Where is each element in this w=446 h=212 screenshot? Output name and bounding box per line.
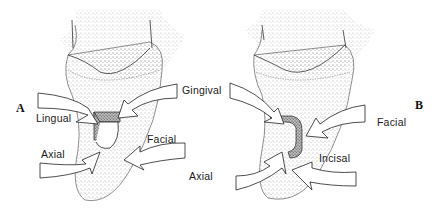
panel-label-b: B xyxy=(415,98,423,113)
label-a-facial: Facial xyxy=(147,133,176,145)
label-b-incisal: Incisal xyxy=(319,152,350,164)
panel-label-a: A xyxy=(16,101,25,116)
label-b-axial: Axial xyxy=(189,170,213,182)
label-a-lingual: Lingual xyxy=(36,112,71,124)
dental-cavity-walls-diagram: A B Gingival Lingual Axial Facial Axial … xyxy=(0,0,446,212)
label-b-facial: Facial xyxy=(377,116,406,128)
label-a-axial: Axial xyxy=(41,148,65,160)
diagram-drawing xyxy=(0,0,446,212)
label-a-gingival: Gingival xyxy=(182,84,222,96)
